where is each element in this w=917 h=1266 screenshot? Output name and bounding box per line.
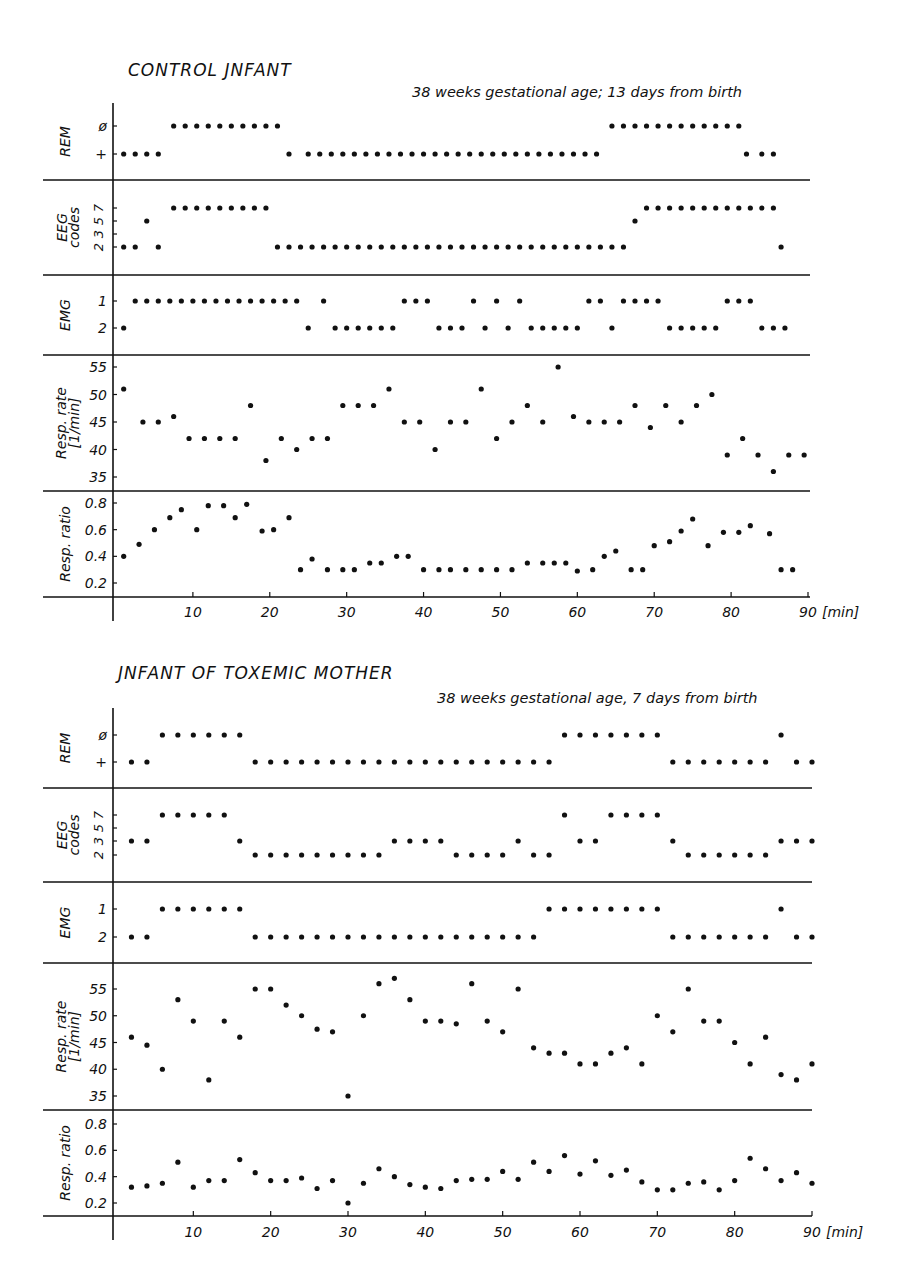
data-point	[721, 530, 726, 535]
data-point	[237, 906, 242, 911]
data-point	[546, 1051, 551, 1056]
data-point	[309, 556, 314, 561]
y-tick-label: 5	[91, 217, 106, 225]
data-point	[144, 298, 149, 303]
x-tick-label: 30	[339, 1224, 357, 1240]
data-point	[479, 151, 484, 156]
data-point	[485, 1177, 490, 1182]
data-point	[701, 934, 706, 939]
data-point	[367, 560, 372, 565]
data-point	[701, 759, 706, 764]
data-point	[352, 567, 357, 572]
data-point	[330, 759, 335, 764]
data-point	[379, 325, 384, 330]
data-point	[717, 934, 722, 939]
data-point	[531, 934, 536, 939]
data-point	[286, 515, 291, 520]
data-point	[376, 1166, 381, 1171]
data-point	[286, 151, 291, 156]
data-point	[438, 1186, 443, 1191]
data-point	[590, 567, 595, 572]
data-point	[407, 934, 412, 939]
data-point	[509, 419, 514, 424]
y-tick-label: 50	[89, 1008, 107, 1024]
data-point	[748, 934, 753, 939]
data-point	[602, 419, 607, 424]
y-tick-label: +	[95, 146, 107, 162]
y-tick-label: 5	[91, 824, 106, 832]
data-point	[471, 298, 476, 303]
data-point	[191, 1019, 196, 1024]
data-point	[425, 298, 430, 303]
y-tick-label: 35	[89, 469, 107, 485]
data-point	[129, 934, 134, 939]
y-tick-label: 50	[89, 387, 107, 403]
data-point	[794, 838, 799, 843]
data-point	[144, 151, 149, 156]
data-point	[667, 123, 672, 128]
data-point	[621, 123, 626, 128]
data-point	[748, 205, 753, 210]
data-point	[494, 436, 499, 441]
data-point	[771, 469, 776, 474]
data-point	[156, 244, 161, 249]
data-point	[744, 151, 749, 156]
data-point	[809, 934, 814, 939]
data-point	[432, 447, 437, 452]
data-point	[602, 554, 607, 559]
data-point	[379, 560, 384, 565]
data-point	[330, 934, 335, 939]
data-point	[402, 244, 407, 249]
x-tick-label: 90	[803, 1224, 821, 1240]
data-point	[194, 123, 199, 128]
data-point	[624, 906, 629, 911]
data-point	[253, 986, 258, 991]
data-point	[402, 298, 407, 303]
data-point	[794, 934, 799, 939]
y-tick-label: 45	[89, 1035, 107, 1051]
data-point	[663, 403, 668, 408]
data-point	[621, 298, 626, 303]
data-point	[325, 567, 330, 572]
data-point	[344, 325, 349, 330]
data-point	[525, 151, 530, 156]
data-point	[732, 759, 737, 764]
data-point	[309, 244, 314, 249]
data-point	[632, 403, 637, 408]
data-point	[509, 567, 514, 572]
data-point	[376, 759, 381, 764]
data-point	[454, 759, 459, 764]
data-point	[244, 502, 249, 507]
data-point	[732, 934, 737, 939]
data-point	[345, 1200, 350, 1205]
data-point	[639, 1179, 644, 1184]
panel-ylabel: Resp. ratio	[57, 506, 73, 582]
data-point	[748, 1156, 753, 1161]
data-point	[469, 981, 474, 986]
data-point	[732, 852, 737, 857]
data-point	[317, 151, 322, 156]
data-point	[423, 838, 428, 843]
data-point	[629, 567, 634, 572]
data-point	[632, 123, 637, 128]
data-point	[639, 732, 644, 737]
data-point	[252, 205, 257, 210]
data-point	[144, 1043, 149, 1048]
data-point	[206, 1077, 211, 1082]
data-point	[463, 419, 468, 424]
data-point	[160, 906, 165, 911]
data-point	[171, 414, 176, 419]
data-point	[748, 1061, 753, 1066]
data-point	[413, 298, 418, 303]
data-point	[448, 244, 453, 249]
data-point	[284, 759, 289, 764]
data-point	[144, 218, 149, 223]
data-point	[167, 515, 172, 520]
data-point	[144, 934, 149, 939]
x-axis-unit: [min]	[826, 1224, 863, 1240]
data-point	[608, 732, 613, 737]
data-point	[448, 567, 453, 572]
data-point	[436, 567, 441, 572]
data-point	[392, 976, 397, 981]
data-point	[725, 205, 730, 210]
